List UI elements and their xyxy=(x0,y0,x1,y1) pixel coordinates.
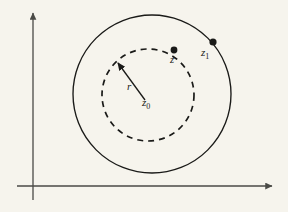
point-z1-label-subscript: 1 xyxy=(205,52,209,61)
point-z-dot xyxy=(171,47,178,54)
point-z-label: z xyxy=(169,54,174,65)
complex-plane-figure: r z0 z z1 xyxy=(0,0,288,212)
center-label-subscript: 0 xyxy=(146,102,150,111)
point-z1-dot xyxy=(209,38,216,45)
radius-label: r xyxy=(127,80,132,92)
